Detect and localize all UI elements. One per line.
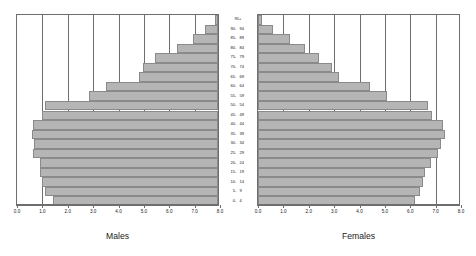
bar-row bbox=[258, 111, 459, 121]
bar-males-35-39 bbox=[32, 130, 219, 140]
bar-row bbox=[258, 168, 459, 178]
x-tick-label: 2.0 bbox=[65, 209, 71, 214]
series-caption-males: Males bbox=[106, 231, 129, 241]
bar-row bbox=[17, 177, 218, 187]
x-tick-label: 8.0 bbox=[217, 209, 223, 214]
age-group-label: 55-59 bbox=[219, 90, 257, 100]
bar-row bbox=[258, 187, 459, 197]
age-group-label: 15-19 bbox=[219, 167, 257, 177]
bar-females-30-34 bbox=[258, 139, 441, 149]
age-group-label: 40-44 bbox=[219, 119, 257, 129]
bar-females-85-89 bbox=[258, 34, 290, 44]
bar-males-95+ bbox=[215, 15, 218, 25]
age-group-label: 0-4 bbox=[219, 195, 257, 205]
bar-females-95+ bbox=[258, 15, 262, 25]
bar-males-15-19 bbox=[40, 168, 218, 178]
bar-row bbox=[258, 44, 459, 54]
x-tick-label: 6.0 bbox=[166, 209, 172, 214]
x-tick-label: 8.0 bbox=[458, 209, 464, 214]
bar-males-70-74 bbox=[143, 63, 218, 73]
bar-females-90-94 bbox=[258, 25, 273, 35]
bar-row bbox=[258, 177, 459, 187]
x-tick bbox=[17, 205, 18, 208]
x-tick-label: 3.0 bbox=[331, 209, 337, 214]
x-tick-label: 4.0 bbox=[115, 209, 121, 214]
bar-row bbox=[17, 91, 218, 101]
age-group-label: 5-9 bbox=[219, 186, 257, 196]
bar-row bbox=[17, 111, 218, 121]
x-tick-label: 7.0 bbox=[191, 209, 197, 214]
bar-females-25-29 bbox=[258, 149, 438, 159]
bar-row bbox=[258, 149, 459, 159]
age-group-label: 60-64 bbox=[219, 81, 257, 91]
x-tick bbox=[144, 205, 145, 208]
bar-row bbox=[17, 101, 218, 111]
age-group-label: 35-39 bbox=[219, 129, 257, 139]
bar-row bbox=[258, 63, 459, 73]
bar-males-5-9 bbox=[45, 187, 218, 197]
bar-females-75-79 bbox=[258, 53, 319, 63]
bar-row bbox=[17, 130, 218, 140]
x-tick bbox=[169, 205, 170, 208]
bar-row bbox=[258, 120, 459, 130]
bar-row bbox=[258, 82, 459, 92]
x-tick-label: 0.0 bbox=[14, 209, 20, 214]
bar-row bbox=[17, 139, 218, 149]
bar-row bbox=[258, 53, 459, 63]
bar-females-10-14 bbox=[258, 177, 423, 187]
age-group-label: 10-14 bbox=[219, 176, 257, 186]
x-tick bbox=[42, 205, 43, 208]
bar-females-70-74 bbox=[258, 63, 332, 73]
x-tick-label: 2.0 bbox=[306, 209, 312, 214]
x-tick bbox=[258, 205, 259, 208]
age-group-label: 85-89 bbox=[219, 33, 257, 43]
x-tick bbox=[410, 205, 411, 208]
age-group-label: 20-24 bbox=[219, 157, 257, 167]
bar-row bbox=[258, 158, 459, 168]
bar-males-50-54 bbox=[45, 101, 218, 111]
bar-row bbox=[17, 63, 218, 73]
bar-row bbox=[17, 168, 218, 178]
bar-row bbox=[17, 187, 218, 197]
x-tick bbox=[436, 205, 437, 208]
bar-females-35-39 bbox=[258, 130, 445, 140]
x-tick bbox=[385, 205, 386, 208]
bar-males-85-89 bbox=[193, 34, 218, 44]
bar-row bbox=[258, 34, 459, 44]
bar-row bbox=[17, 158, 218, 168]
bar-females-40-44 bbox=[258, 120, 443, 130]
bar-row bbox=[258, 91, 459, 101]
age-group-label: 90-94 bbox=[219, 24, 257, 34]
plot-area-females bbox=[257, 14, 460, 205]
bar-males-25-29 bbox=[33, 149, 218, 159]
bar-males-20-24 bbox=[40, 158, 218, 168]
bar-females-60-64 bbox=[258, 82, 370, 92]
age-group-label: 70-74 bbox=[219, 62, 257, 72]
bar-females-0-4 bbox=[258, 196, 415, 205]
bar-row bbox=[17, 72, 218, 82]
bar-males-55-59 bbox=[89, 91, 218, 101]
age-group-label: 80-84 bbox=[219, 43, 257, 53]
x-tick bbox=[360, 205, 361, 208]
bar-males-75-79 bbox=[155, 53, 218, 63]
x-tick bbox=[119, 205, 120, 208]
x-tick-label: 4.0 bbox=[356, 209, 362, 214]
x-tick-label: 0.0 bbox=[255, 209, 261, 214]
x-tick bbox=[68, 205, 69, 208]
bar-row bbox=[17, 34, 218, 44]
bar-females-65-69 bbox=[258, 72, 339, 82]
bar-row bbox=[258, 25, 459, 35]
x-tick-label: 7.0 bbox=[432, 209, 438, 214]
x-tick bbox=[334, 205, 335, 208]
bar-row bbox=[17, 196, 218, 205]
x-tick-label: 5.0 bbox=[141, 209, 147, 214]
bar-males-30-34 bbox=[34, 139, 218, 149]
bar-males-10-14 bbox=[42, 177, 218, 187]
bar-males-0-4 bbox=[53, 196, 218, 205]
bar-row bbox=[17, 82, 218, 92]
bar-males-40-44 bbox=[33, 120, 218, 130]
x-tick bbox=[461, 205, 462, 208]
bar-row bbox=[17, 120, 218, 130]
bar-row bbox=[258, 139, 459, 149]
x-tick-label: 5.0 bbox=[382, 209, 388, 214]
